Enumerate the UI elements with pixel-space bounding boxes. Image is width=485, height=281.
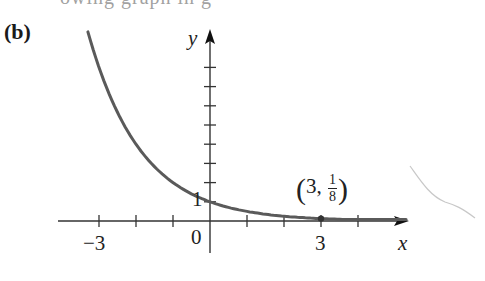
fraction-numerator: 1	[328, 173, 337, 189]
open-paren: (	[296, 172, 306, 205]
x-tick-label-neg3: −3	[83, 233, 105, 254]
stray-pen-mark	[410, 166, 475, 218]
annotation-fraction: 1 8	[328, 173, 337, 204]
x-axis-label: x	[398, 233, 407, 254]
x-tick-label-3: 3	[315, 233, 326, 254]
annotation-x: 3,	[306, 174, 322, 198]
point-annotation: (3, 1 8 )	[296, 173, 348, 204]
fraction-denominator: 8	[328, 189, 337, 204]
exponential-curve	[88, 32, 406, 220]
x-tick-label-0: 0	[191, 227, 202, 248]
y-axis-label: y	[188, 28, 197, 49]
figure-stage: owing graph in g (b) y x −3 0 3 1 (3, 1 …	[0, 0, 485, 281]
point-marker	[318, 215, 324, 221]
plot-area	[0, 0, 485, 281]
close-paren: )	[338, 172, 348, 205]
y-tick-label-1: 1	[192, 189, 203, 210]
